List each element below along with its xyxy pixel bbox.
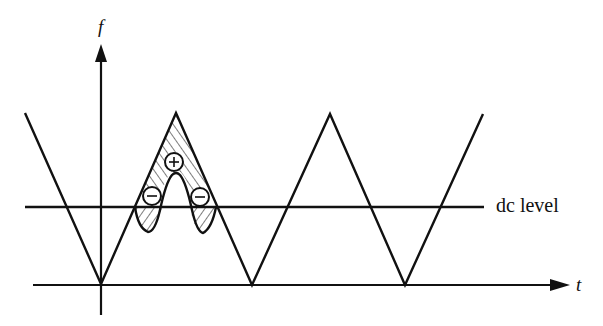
diagram-canvas xyxy=(0,0,603,326)
negative-area xyxy=(135,207,216,233)
minus-circle-icon-left xyxy=(143,187,161,205)
y-axis-arrow-icon xyxy=(95,44,107,62)
y-axis-label: f xyxy=(98,16,103,38)
x-axis-label: t xyxy=(576,274,581,296)
minus-circle-icon-right xyxy=(191,188,209,206)
x-axis-arrow-icon xyxy=(550,279,570,291)
dc-level-label: dc level xyxy=(496,194,559,217)
plus-circle-icon xyxy=(165,153,183,171)
triangle-waveform xyxy=(25,113,483,285)
